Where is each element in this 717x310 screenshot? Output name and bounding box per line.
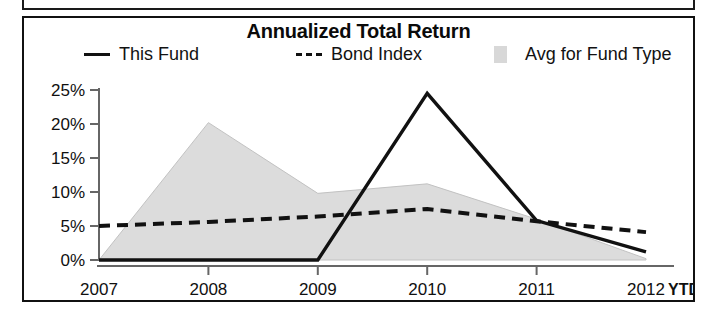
svg-text:2008: 2008 <box>189 280 227 299</box>
svg-text:2009: 2009 <box>299 280 337 299</box>
chart-title: Annualized Total Return <box>24 20 693 43</box>
x-axis-tick-marks <box>208 266 536 275</box>
svg-text:0%: 0% <box>60 251 85 270</box>
chart-plot-svg: 0%5%10%15%20%25% 20072008200920102011201… <box>24 58 693 300</box>
y-axis-tick-labels: 0%5%10%15%20%25% <box>51 81 85 270</box>
svg-text:10%: 10% <box>51 183 85 202</box>
svg-text:2011: 2011 <box>518 280 555 299</box>
x-axis-tick-labels: 200720082009201020112012YTD <box>80 280 693 299</box>
series-area-avg-for-fund-type <box>99 123 646 260</box>
svg-text:5%: 5% <box>60 217 85 236</box>
plot-area: 0%5%10%15%20%25% 20072008200920102011201… <box>24 58 693 300</box>
solid-line-swatch-icon <box>84 53 110 56</box>
svg-text:YTD: YTD <box>668 281 693 298</box>
svg-text:2012: 2012 <box>627 280 665 299</box>
dashed-line-swatch-icon <box>296 53 322 56</box>
svg-text:15%: 15% <box>51 149 85 168</box>
svg-text:20%: 20% <box>51 115 85 134</box>
y-axis-tick-marks <box>90 90 99 260</box>
svg-text:2007: 2007 <box>80 280 118 299</box>
annualized-total-return-chart-panel: Annualized Total Return This Fund Bond I… <box>22 16 695 302</box>
panel-above-sliver <box>22 0 695 10</box>
svg-text:25%: 25% <box>51 81 85 100</box>
svg-text:2010: 2010 <box>408 280 446 299</box>
